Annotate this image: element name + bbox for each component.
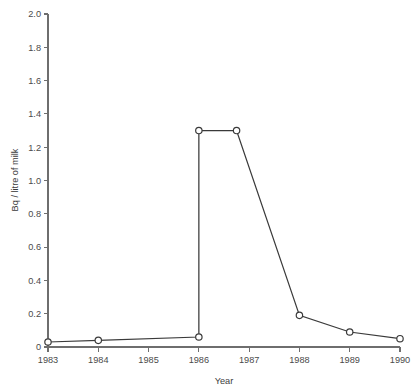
x-tick-label: 1990 [390,355,410,365]
data-series [45,127,403,345]
data-point-marker [397,335,403,341]
y-axis-title: Bq / litre of milk [10,148,20,211]
series-line [48,131,400,342]
x-axis: 19831984198519861987198819891990 [38,347,410,365]
x-tick-label: 1989 [339,355,359,365]
data-point-marker [296,312,302,318]
x-tick-label: 1987 [239,355,259,365]
y-tick-label: 1.6 [28,76,41,86]
y-tick-label: 1.2 [28,143,41,153]
x-axis-title: Year [215,376,234,386]
data-point-marker [347,329,353,335]
y-tick-label: 1.4 [28,109,41,119]
x-tick-label: 1988 [289,355,309,365]
y-tick-label: 0.2 [28,309,41,319]
line-chart: 00.20.40.60.81.01.21.41.61.82.0 19831984… [0,0,415,389]
y-axis: 00.20.40.60.81.01.21.41.61.82.0 [28,9,48,352]
y-tick-label: 1.0 [28,176,41,186]
data-point-marker [233,127,239,133]
y-tick-label: 0 [36,342,41,352]
y-tick-label: 0.4 [28,276,41,286]
data-point-marker [45,339,51,345]
x-tick-label: 1983 [38,355,58,365]
y-tick-label: 0.6 [28,242,41,252]
data-point-marker [196,334,202,340]
x-tick-label: 1985 [138,355,158,365]
data-point-marker [95,337,101,343]
y-tick-label: 2.0 [28,9,41,19]
data-point-marker [196,127,202,133]
y-tick-label: 0.8 [28,209,41,219]
x-tick-label: 1984 [88,355,108,365]
x-tick-label: 1986 [189,355,209,365]
y-tick-label: 1.8 [28,43,41,53]
chart-container: 00.20.40.60.81.01.21.41.61.82.0 19831984… [0,0,415,389]
